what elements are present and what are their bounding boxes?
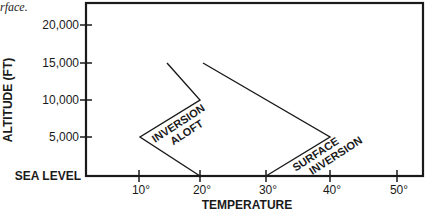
- y-tick-5000: 5,000: [49, 130, 79, 144]
- y-tick-20000: 20,000: [42, 18, 79, 32]
- x-tick-30: 30°: [259, 183, 277, 197]
- x-tick-40: 40°: [323, 183, 341, 197]
- plot-frame: [86, 3, 423, 176]
- y-tick-sea-level: SEA LEVEL: [15, 169, 81, 183]
- annotation-surface-inversion: SURFACE INVERSION: [290, 124, 364, 184]
- y-tick-10000: 10,000: [42, 93, 79, 107]
- x-axis-title: TEMPERATURE: [202, 198, 292, 212]
- annotation-inversion-aloft: INVERSION ALOFT: [150, 102, 214, 155]
- x-tick-50: 50°: [390, 183, 408, 197]
- temperature-altitude-chart: 20,000 15,000 10,000 5,000 SEA LEVEL 10°…: [0, 0, 433, 212]
- x-tick-10: 10°: [132, 183, 150, 197]
- x-tick-20: 20°: [193, 183, 211, 197]
- y-axis-title: ALTITUDE (FT): [1, 58, 15, 142]
- y-tick-15000: 15,000: [42, 56, 79, 70]
